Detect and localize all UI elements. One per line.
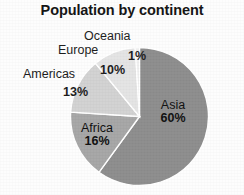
pie-value-europe: 10% [100,63,125,77]
pie-value-africa: 16% [72,135,122,148]
pie-label-europe: Europe [58,43,98,57]
pie-value-americas: 13% [63,85,88,99]
pie-value-asia: 60% [152,112,194,125]
page-title: Population by continent [0,2,244,19]
pie-label-asia: Asia 60% [152,99,194,125]
pie-label-africa: Africa 16% [72,122,122,148]
pie-label-oceania: Oceania [84,29,131,43]
pie-chart-figure: Population by continent Oceania Europe A… [0,0,244,195]
pie-value-oceania: 1% [128,49,146,63]
pie-label-americas: Americas [23,67,75,81]
